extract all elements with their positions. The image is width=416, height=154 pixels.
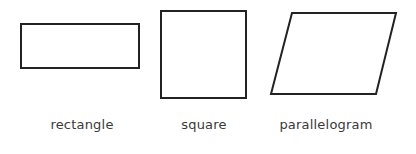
rectangle-shape [21, 24, 139, 68]
rectangle-label: rectangle [22, 117, 142, 132]
parallelogram-shape [271, 13, 396, 94]
parallelogram-label: parallelogram [266, 117, 386, 132]
square-label: square [144, 117, 264, 132]
shapes-diagram: rectangle square parallelogram [0, 0, 416, 154]
square-shape [161, 11, 246, 98]
